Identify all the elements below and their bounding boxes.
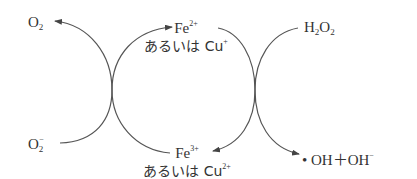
arrow-h2o2-to-oh	[255, 28, 299, 154]
o2-base: O	[28, 14, 39, 30]
cu1-charge: +	[223, 37, 228, 46]
products-text: • OH＋OH	[302, 152, 369, 168]
h2o2-h: H	[304, 19, 315, 35]
cu2-line: あるいは Cu2+	[128, 163, 246, 179]
superoxide-sub: 2	[39, 144, 44, 154]
label-fe3-cu2: Fe3+ あるいは Cu2+	[128, 145, 246, 179]
label-h2o2: H2O2	[304, 20, 335, 37]
cu2-charge: 2+	[222, 162, 231, 171]
products-charge: −	[369, 151, 374, 160]
fe2-base: Fe	[174, 20, 189, 36]
fe3-line: Fe3+	[128, 145, 246, 161]
cu1-text: あるいは Cu	[144, 38, 223, 54]
h2o2-sub2: 2	[330, 27, 335, 37]
fe2-charge: 2+	[189, 19, 198, 28]
label-fe2-cu1: Fe2+ あるいは Cu+	[128, 20, 244, 54]
h2o2-o: O	[319, 19, 330, 35]
fe3-charge: 3+	[190, 144, 199, 153]
o2-sub: 2	[39, 22, 44, 32]
cu2-text: あるいは Cu	[143, 163, 222, 179]
cu1-line: あるいは Cu+	[128, 38, 244, 54]
label-hydroxyl-products: • OH＋OH−	[302, 152, 374, 168]
arrow-superoxide-to-o2	[55, 21, 112, 143]
label-superoxide: O2−	[28, 136, 44, 154]
fe2-line: Fe2+	[128, 20, 244, 36]
superoxide-base: O	[28, 136, 39, 152]
label-o2: O2	[28, 15, 43, 32]
superoxide-charge: −	[39, 135, 44, 144]
fe3-base: Fe	[175, 145, 190, 161]
